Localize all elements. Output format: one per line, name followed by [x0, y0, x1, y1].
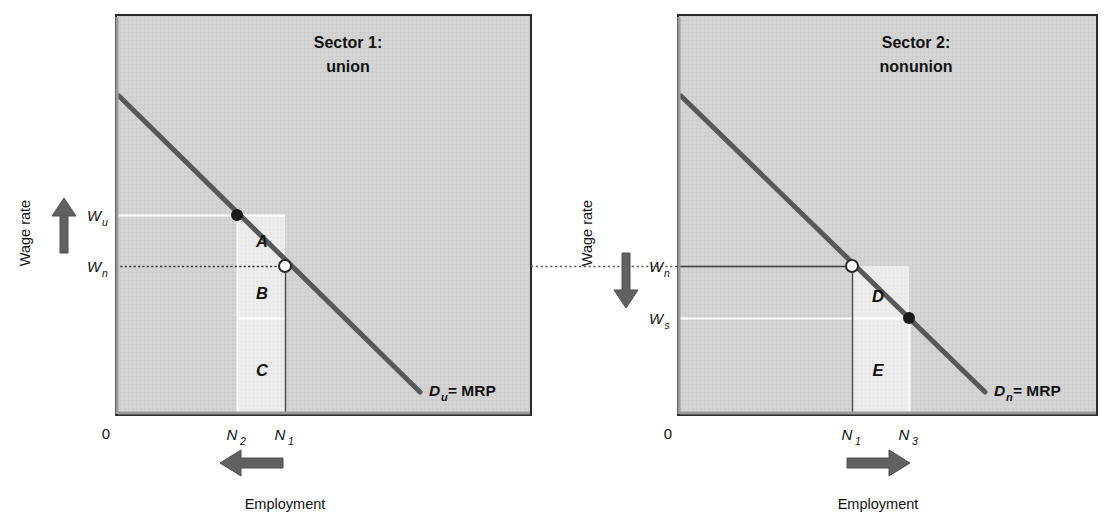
x-tick-n2: N 2 [227, 426, 247, 447]
y-axis-label-left: Wage rate [17, 200, 33, 266]
y-axis-label-right: Wage rate [579, 200, 595, 266]
x-tick-n2-sub: 2 [239, 435, 246, 447]
panel-title-line2-left: union [326, 58, 370, 75]
point-union-wu-n2 [231, 209, 243, 221]
y-tick-wu: W u [87, 207, 108, 228]
x-tick-n1-left: N 1 [275, 426, 294, 447]
curve-label-nonunion-main: D [994, 382, 1005, 399]
region-label-B: B [256, 284, 268, 302]
y-tick-wn-sub: n [102, 267, 108, 279]
curve-label-union-rest: = MRP [448, 382, 496, 399]
x-tick-n1-right-sub: 1 [855, 435, 861, 447]
figure-canvas: Sector 1: union Wage rate W u W n A B C [0, 0, 1114, 530]
region-label-E: E [872, 361, 884, 379]
region-label-C: C [256, 361, 269, 379]
panel-sector-1: Sector 1: union Wage rate W u W n A B C [17, 15, 531, 512]
employment-direction-arrow-right [847, 450, 910, 476]
region-label-D: D [872, 287, 884, 305]
economics-figure: Sector 1: union Wage rate W u W n A B C [0, 0, 1114, 530]
y-tick-ws-main: W [649, 310, 665, 327]
x-tick-n1-right-main: N [842, 426, 853, 443]
x-tick-n1-main: N [275, 426, 286, 443]
curve-label-nonunion-rest: = MRP [1013, 382, 1061, 399]
employment-direction-arrow-left [220, 450, 283, 476]
y-tick-wn-right: W n [649, 258, 670, 279]
y-tick-wn-right-sub: n [664, 267, 670, 279]
y-tick-wn-right-main: W [649, 258, 665, 275]
point-union-wn-n1 [279, 260, 291, 272]
x-tick-n3: N 3 [899, 426, 919, 447]
y-tick-wu-sub: u [102, 216, 108, 228]
x-tick-n1-right: N 1 [842, 426, 861, 447]
panel-sector-2: Sector 2: nonunion Wage rate W n W s D E [579, 15, 1097, 512]
curve-label-nonunion-sub: n [1006, 391, 1013, 403]
wage-direction-arrow-down [614, 253, 638, 308]
panel-title-line1-right: Sector 2: [882, 34, 950, 51]
y-tick-wn-left: W n [87, 258, 108, 279]
origin-label-right: 0 [664, 425, 672, 442]
y-tick-ws: W s [649, 310, 670, 331]
x-axis-label-right: Employment [838, 496, 919, 512]
origin-label-left: 0 [102, 425, 110, 442]
x-tick-n3-main: N [899, 426, 910, 443]
wage-direction-arrow-up [52, 198, 76, 253]
y-tick-wu-main: W [87, 207, 103, 224]
x-tick-n2-main: N [227, 426, 238, 443]
curve-label-union-main: D [429, 382, 440, 399]
x-tick-n1-sub: 1 [288, 435, 294, 447]
curve-label-union-sub: u [441, 391, 448, 403]
x-axis-label-left: Employment [245, 496, 326, 512]
point-nonunion-ws-n3 [903, 312, 915, 324]
point-nonunion-wn-n1 [846, 260, 858, 272]
panel-title-line2-right: nonunion [880, 58, 953, 75]
x-tick-n3-sub: 3 [912, 435, 918, 447]
y-tick-wn-main: W [87, 258, 103, 275]
region-label-A: A [255, 232, 268, 250]
panel-title-line1-left: Sector 1: [314, 34, 382, 51]
y-tick-ws-sub: s [664, 319, 670, 331]
